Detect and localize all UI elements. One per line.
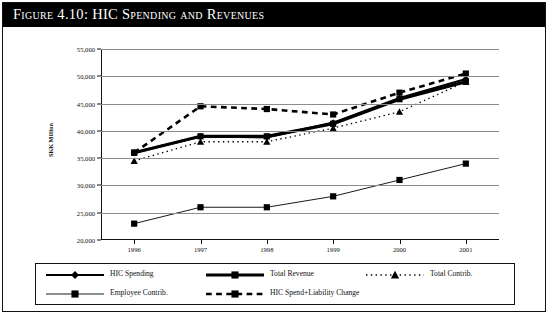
- x-tick-mark: [201, 240, 202, 244]
- y-tick-label: 40,000: [77, 127, 95, 134]
- figure-frame: Figure 4.10: HIC Spending and Revenues S…: [2, 2, 546, 312]
- legend-label: Employee Contrib.: [110, 288, 168, 297]
- legend-swatch: [364, 266, 426, 284]
- square-marker: [330, 193, 336, 199]
- y-tick-mark: [97, 103, 101, 104]
- legend-swatch: [204, 285, 266, 303]
- plot-wrapper: 20,00025,00030,00035,00040,00045,00050,0…: [3, 27, 547, 257]
- legend-swatch: [44, 266, 106, 284]
- y-tick-mark: [97, 185, 101, 186]
- square-marker: [231, 271, 238, 278]
- y-tick-label: 45,000: [77, 100, 95, 107]
- series-hic-spending: [131, 76, 469, 156]
- chart-body: SKK Million 20,00025,00030,00035,00040,0…: [3, 27, 545, 311]
- gridline: [101, 131, 499, 132]
- x-tick-label: 2000: [393, 246, 406, 253]
- x-tick-label: 2001: [459, 246, 472, 253]
- diamond-marker: [71, 271, 79, 279]
- square-marker: [396, 90, 402, 96]
- legend-label: HIC Spending: [110, 269, 154, 278]
- y-tick-label: 20,000: [77, 237, 95, 244]
- square-marker: [197, 204, 203, 210]
- square-marker: [330, 111, 336, 117]
- x-axis-line: [101, 239, 499, 240]
- square-marker: [71, 290, 78, 297]
- gridline: [101, 76, 499, 77]
- triangle-marker: [391, 271, 399, 279]
- x-tick-mark: [400, 240, 401, 244]
- square-marker: [131, 150, 137, 156]
- square-marker: [264, 106, 270, 112]
- series-total-contrib: [131, 78, 470, 164]
- legend-swatch: [44, 285, 106, 303]
- y-tick-mark: [97, 240, 101, 241]
- square-marker: [396, 96, 402, 102]
- y-axis-line: [101, 49, 102, 240]
- legend-label: HIC Spend+Liability Change: [270, 288, 360, 297]
- y-tick-label: 55,000: [77, 46, 95, 53]
- square-marker: [131, 221, 137, 227]
- y-tick-label: 25,000: [77, 209, 95, 216]
- plot-area: 20,00025,00030,00035,00040,00045,00050,0…: [101, 49, 499, 240]
- series-employee-contrib: [131, 161, 469, 227]
- y-tick-mark: [97, 130, 101, 131]
- y-tick-mark: [97, 158, 101, 159]
- y-tick-mark: [97, 49, 101, 50]
- legend-label: Total Revenue: [270, 269, 314, 278]
- x-tick-mark: [333, 240, 334, 244]
- y-tick-label: 35,000: [77, 155, 95, 162]
- y-tick-label: 50,000: [77, 73, 95, 80]
- x-tick-mark: [466, 240, 467, 244]
- gridline: [101, 158, 499, 159]
- series-total-revenue: [131, 79, 469, 156]
- square-marker: [396, 177, 402, 183]
- chart-legend: HIC SpendingTotal RevenueTotal Contrib.E…: [35, 263, 515, 305]
- square-marker: [264, 204, 270, 210]
- y-tick-label: 30,000: [77, 182, 95, 189]
- x-tick-label: 1998: [260, 246, 273, 253]
- series-hic-spend-liability-change: [131, 70, 469, 155]
- gridline: [101, 104, 499, 105]
- x-tick-label: 1999: [327, 246, 340, 253]
- y-tick-mark: [97, 76, 101, 77]
- gridline: [101, 185, 499, 186]
- triangle-marker: [396, 108, 403, 115]
- square-marker: [231, 290, 238, 297]
- x-tick-mark: [267, 240, 268, 244]
- legend-label: Total Contrib.: [430, 269, 473, 278]
- gridline: [101, 213, 499, 214]
- x-tick-label: 1997: [194, 246, 207, 253]
- x-tick-label: 1996: [128, 246, 141, 253]
- series-line: [134, 164, 466, 224]
- square-marker: [463, 161, 469, 167]
- chart-series: [101, 49, 499, 240]
- x-tick-mark: [134, 240, 135, 244]
- gridline: [101, 49, 499, 50]
- y-tick-mark: [97, 212, 101, 213]
- legend-swatch: [204, 266, 266, 284]
- page-title: Figure 4.10: HIC Spending and Revenues: [13, 6, 264, 23]
- figure-title-bar: Figure 4.10: HIC Spending and Revenues: [3, 3, 545, 27]
